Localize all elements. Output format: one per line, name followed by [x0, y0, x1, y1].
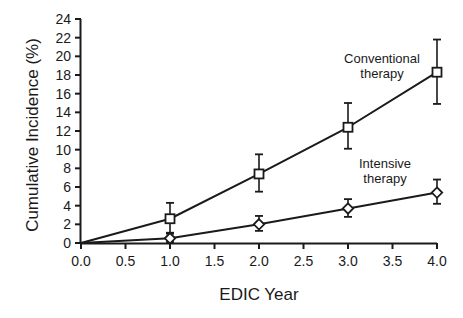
x-tick-label: 3.5: [373, 254, 413, 268]
y-tick-label: 16: [37, 87, 71, 101]
data-point-diamond: [432, 187, 442, 197]
data-point-square: [344, 123, 353, 132]
y-tick-label: 0: [37, 236, 71, 250]
x-tick-label: 1.5: [195, 254, 235, 268]
data-point-square: [255, 169, 264, 178]
x-tick-label: 2.5: [284, 254, 324, 268]
data-point-diamond: [254, 219, 264, 229]
y-tick-label: 6: [37, 180, 71, 194]
y-tick-label: 14: [37, 105, 71, 119]
y-tick-label: 24: [37, 12, 71, 26]
y-tick-label: 20: [37, 49, 71, 63]
data-point-diamond: [343, 203, 353, 213]
x-tick-label: 3.0: [328, 254, 368, 268]
annotation-conventional-line1: Conventional: [330, 51, 434, 66]
y-tick-label: 8: [37, 161, 71, 175]
x-tick-label: 1.0: [150, 254, 190, 268]
y-tick-label: 4: [37, 199, 71, 213]
y-tick-label: 12: [37, 124, 71, 138]
x-tick-label: 2.0: [239, 254, 279, 268]
x-tick-label: 0.5: [106, 254, 146, 268]
annotation-intensive-therapy: Intensive therapy: [340, 156, 430, 186]
annotation-conventional-therapy: Conventional therapy: [330, 51, 434, 81]
x-tick-label: 4.0: [417, 254, 457, 268]
y-tick-label: 10: [37, 143, 71, 157]
x-tick-label: 0.0: [61, 254, 101, 268]
annotation-conventional-line2: therapy: [330, 66, 434, 81]
annotation-intensive-line2: therapy: [340, 171, 430, 186]
y-tick-label: 2: [37, 217, 71, 231]
chart-figure: Cumulative Incidence (%) EDIC Year 02468…: [0, 0, 463, 318]
y-tick-label: 22: [37, 31, 71, 45]
y-tick-label: 18: [37, 68, 71, 82]
annotation-intensive-line1: Intensive: [340, 156, 430, 171]
data-point-square: [166, 214, 175, 223]
